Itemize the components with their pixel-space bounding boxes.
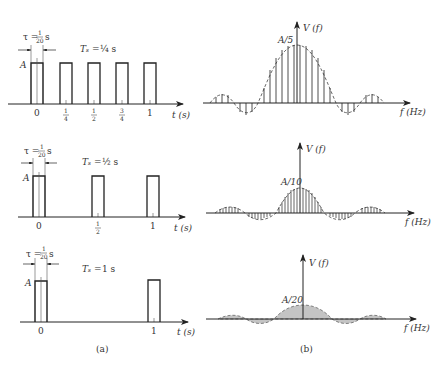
spectrum-y-label: V (f) (309, 258, 329, 268)
time-axis-label: t (s) (172, 110, 191, 120)
tick-fractions: 14 12 34 (63, 107, 125, 122)
row2-spectrum: V (f) A/10 f (Hz) (206, 143, 431, 227)
svg-text:1: 1 (96, 220, 100, 227)
peak-label: A/20 (281, 295, 303, 305)
spectrum-x-label: f (Hz) (403, 323, 430, 333)
pulse-train (33, 176, 159, 217)
row1-time-domain: τ = 1 20 s Tₛ = ¼ s A 0 14 12 34 1 (8, 29, 191, 122)
caption-a: (a) (96, 344, 108, 354)
tick-0: 0 (36, 221, 42, 231)
spectrum-y-label: V (f) (306, 144, 326, 154)
spectrum-x-label: f (Hz) (399, 107, 426, 117)
row2-time-domain: τ = 1 20 s Tₛ = ½ s A 0 12 1 t (s) (18, 143, 193, 235)
amplitude-label: A (24, 278, 32, 288)
tau-numerator: 1 (38, 29, 42, 36)
period-value: ½ s (102, 157, 119, 167)
row1-spectrum: V (f) A/5 f (Hz) (203, 22, 426, 117)
tau-denominator: 20 (36, 37, 44, 44)
tau-numerator: 1 (40, 143, 44, 150)
period-label: Tₛ = (80, 44, 99, 54)
tau-unit: s (45, 32, 50, 42)
svg-text:1: 1 (64, 107, 68, 114)
tick-0: 0 (38, 326, 44, 336)
pulse-train (31, 63, 156, 104)
svg-text:3: 3 (120, 107, 124, 114)
row3-time-domain: τ = 1 20 s Tₛ = 1 s A 0 1 t (s) (a) (20, 245, 196, 354)
peak-label: A/10 (280, 177, 302, 187)
tau-numerator: 1 (42, 245, 46, 252)
tau-denominator: 20 (38, 151, 46, 158)
tick-0: 0 (34, 108, 40, 118)
tick-fractions: 12 (95, 220, 101, 235)
pulse-train (35, 280, 160, 322)
period-label: Tₛ = (82, 264, 101, 274)
amplitude-label: A (19, 60, 27, 70)
time-axis-label: t (s) (177, 327, 196, 337)
row3-spectrum: V (f) A/20 f (Hz) (b) (206, 255, 430, 354)
tau-denominator: 20 (40, 253, 48, 260)
caption-b: (b) (300, 344, 313, 354)
spectrum-y-label: V (f) (303, 23, 323, 33)
svg-text:4: 4 (120, 115, 124, 122)
svg-text:4: 4 (64, 115, 68, 122)
amplitude-label: A (22, 173, 30, 183)
sampling-spectra-diagram: τ = 1 20 s Tₛ = ¼ s A 0 14 12 34 1 (0, 0, 444, 369)
tau-unit: s (49, 249, 54, 259)
spectrum-x-label: f (Hz) (404, 217, 431, 227)
filled-envelope (218, 305, 386, 324)
svg-text:2: 2 (92, 115, 96, 122)
tick-1: 1 (147, 108, 153, 118)
period-value: 1 s (102, 264, 116, 274)
svg-text:1: 1 (92, 107, 96, 114)
tick-1: 1 (151, 326, 157, 336)
tau-unit: s (47, 146, 52, 156)
tick-1: 1 (150, 221, 156, 231)
time-axis-label: t (s) (174, 223, 193, 233)
period-value: ¼ s (100, 44, 117, 54)
svg-text:2: 2 (96, 228, 100, 235)
peak-label: A/5 (277, 35, 294, 45)
period-label: Tₛ = (82, 157, 101, 167)
